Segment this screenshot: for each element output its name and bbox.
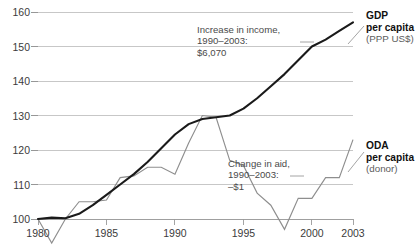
aid-annotation-line-1: Change in aid, (228, 158, 290, 169)
x-axis-label-1985: 1985 (86, 228, 126, 239)
legend-oda-detail: (donor) (366, 163, 414, 175)
y-axis-label-150: 150 (2, 42, 30, 53)
chart-container: 100110120130140150160 198019851990199520… (0, 0, 415, 250)
income-annotation: Increase in income,1990–2003:$6,070 (197, 24, 280, 58)
income-annotation-line-1: Increase in income, (197, 24, 280, 35)
y-axis-label-160: 160 (2, 7, 30, 18)
income-annotation-line-2: 1990–2003: (197, 35, 280, 46)
x-axis-label-2000: 2000 (292, 228, 332, 239)
y-axis-label-120: 120 (2, 145, 30, 156)
legend-gdp-subtitle: per capita (366, 22, 414, 34)
legend-oda-title: ODA (366, 140, 414, 152)
gdp-legend-leader-line (348, 26, 364, 44)
x-axis-label-1980: 1980 (18, 228, 58, 239)
gdp-per-capita-line (38, 22, 353, 219)
y-axis-label-130: 130 (2, 111, 30, 122)
x-axis-label-1995: 1995 (223, 228, 263, 239)
oda-legend-leader-line (348, 152, 364, 172)
income-annotation-line-3: $6,070 (197, 47, 280, 58)
y-axis-tick-stubs (31, 12, 38, 219)
aid-annotation-line-3: –$1 (228, 181, 290, 192)
legend-item-gdp: GDP per capita (PPP US$) (366, 10, 414, 45)
aid-annotation: Change in aid,1990–2003:–$1 (228, 158, 290, 192)
x-axis-label-1990: 1990 (155, 228, 195, 239)
x-axis-label-2003: 2003 (333, 228, 373, 239)
y-axis-label-110: 110 (2, 180, 30, 191)
y-axis-label-100: 100 (2, 214, 30, 225)
legend-gdp-detail: (PPP US$) (366, 33, 414, 45)
y-axis-label-140: 140 (2, 76, 30, 87)
x-axis-ticks (38, 219, 353, 225)
legend-item-oda: ODA per capita (donor) (366, 140, 414, 175)
oda-per-capita-line (38, 116, 353, 244)
gridlines (38, 12, 353, 219)
legend-oda-subtitle: per capita (366, 152, 414, 164)
aid-annotation-line-2: 1990–2003: (228, 169, 290, 180)
legend-gdp-title: GDP (366, 10, 414, 22)
